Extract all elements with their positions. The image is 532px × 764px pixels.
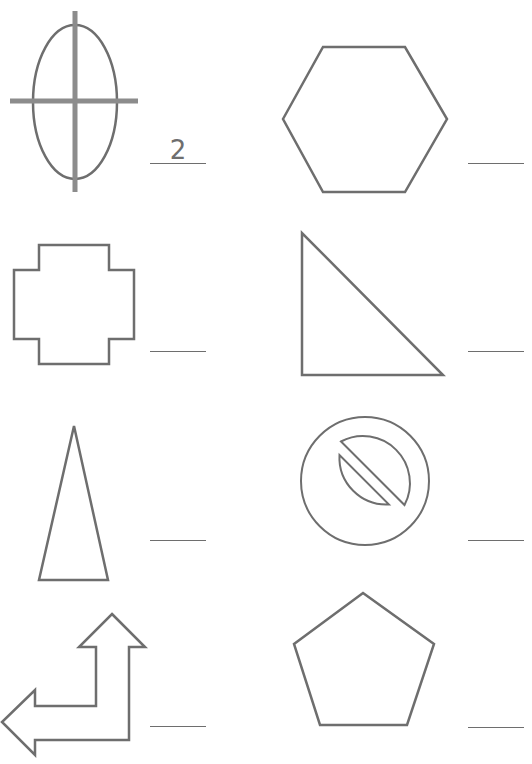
no-symbol-figure xyxy=(301,417,429,545)
answer-blank-right-triangle[interactable] xyxy=(468,351,524,352)
answer-blank-isosceles-triangle[interactable] xyxy=(150,540,206,541)
upper-right-segment xyxy=(341,436,410,505)
ellipse-with-axes-figure xyxy=(10,11,138,192)
worksheet-canvas xyxy=(0,0,532,764)
answer-blank-no-symbol[interactable] xyxy=(468,540,524,541)
hexagon-figure xyxy=(283,47,447,192)
cross-figure xyxy=(14,245,134,364)
right-triangle-figure xyxy=(302,233,443,375)
bent-arrow-figure xyxy=(2,614,145,755)
pentagon-figure xyxy=(294,593,434,725)
answer-text-ellipse: 2 xyxy=(150,137,206,163)
answer-blank-cross[interactable] xyxy=(150,351,206,352)
answer-blank-pentagon[interactable] xyxy=(468,727,524,728)
answer-blank-ellipse[interactable] xyxy=(150,163,206,164)
answer-blank-bent-arrow[interactable] xyxy=(150,726,206,727)
isosceles-triangle-figure xyxy=(39,426,108,580)
answer-blank-hexagon[interactable] xyxy=(468,163,524,164)
lower-left-segment xyxy=(339,455,389,505)
